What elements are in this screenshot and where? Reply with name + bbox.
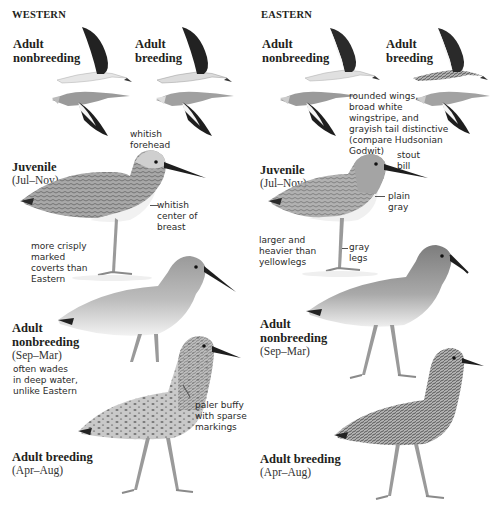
- western-note-wades: often wades in deep water, unlike Easter…: [13, 364, 78, 397]
- eastern-adult-nonbreeding-season: (Sep–Mar): [260, 345, 310, 358]
- eastern-note-wing: rounded wings, broad white wingstripe, a…: [349, 91, 448, 157]
- western-flight-nonbreeding-lower-illustration: [48, 90, 133, 140]
- western-adult-breeding-season: (Apr–Aug): [12, 464, 63, 477]
- eastern-flight-breeding-upper-illustration: [408, 24, 488, 84]
- eastern-adult-breeding-season: (Apr–Aug): [260, 466, 311, 479]
- western-heading: WESTERN: [12, 9, 66, 20]
- western-note-markings: paler buffy with sparse markings: [195, 400, 247, 433]
- eastern-note-breast: plain gray: [388, 191, 410, 213]
- eastern-heading: EASTERN: [261, 9, 312, 20]
- eastern-adult-breeding-label: Adult breeding: [260, 452, 341, 466]
- eastern-adult-nonbreeding-label: Adult nonbreeding: [260, 317, 327, 345]
- western-adult-nonbreeding-label: Adult nonbreeding: [12, 321, 79, 349]
- western-adult-nonbreeding-season: (Sep–Mar): [12, 349, 62, 362]
- western-flight-nonbreeding-upper-illustration: [52, 22, 132, 87]
- western-adult-breeding-label: Adult breeding: [12, 450, 93, 464]
- leader-line: [375, 196, 385, 197]
- western-flight-breeding-upper-illustration: [152, 22, 232, 87]
- eastern-adult-breeding-illustration: [334, 346, 484, 506]
- western-note-breast: whitish center of breast: [157, 200, 198, 233]
- eastern-flight-nonbreeding-upper-illustration: [300, 24, 380, 84]
- western-note-forehead: whitish forehead: [130, 129, 170, 151]
